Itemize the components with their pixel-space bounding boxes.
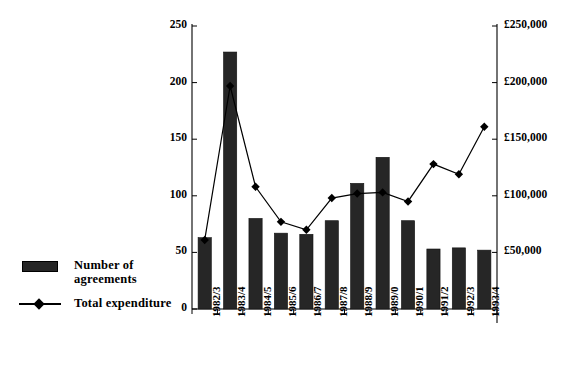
legend-label-agreements-line1: Number of [74, 258, 134, 272]
y-axis-right-tick-150000: £150,000 [504, 131, 547, 143]
expenditure-marker-1993-4 [480, 123, 488, 131]
y-axis-left-tick-250: 250 [170, 18, 187, 30]
y-axis-left-tick-50: 50 [176, 244, 188, 256]
expenditure-marker-1985-6 [277, 218, 285, 226]
chart-legend: Number of agreements Total expenditure [18, 258, 198, 320]
x-axis-tick-1985-6: 1985/6 [286, 286, 298, 317]
bar-1983-4 [224, 52, 237, 309]
legend-label-agreements: Number of agreements [74, 258, 137, 286]
y-axis-right-tick-200000: £200,000 [504, 75, 547, 87]
legend-label-agreements-line2: agreements [74, 272, 137, 286]
y-axis-left-tick-100: 100 [170, 188, 187, 200]
x-axis-tick-1986-7: 1986/7 [311, 286, 323, 317]
x-axis-tick-1990-1: 1990/1 [413, 286, 425, 317]
x-axis-tick-1991-2: 1991/2 [438, 286, 450, 317]
y-axis-right-tick-100000: £100,000 [504, 188, 547, 200]
expenditure-marker-1984-5 [251, 183, 259, 191]
x-axis-tick-1983-4: 1983/4 [235, 286, 247, 317]
legend-item-agreements: Number of agreements [18, 258, 198, 286]
expenditure-marker-1991-2 [429, 160, 437, 168]
y-axis-right-tick-50000: £50,000 [504, 244, 541, 256]
x-axis-tick-1992-3: 1992/3 [464, 286, 476, 317]
x-axis-tick-1982-3: 1982/3 [210, 286, 222, 317]
x-axis-tick-1989-0: 1989/0 [388, 286, 400, 317]
expenditure-marker-1990-1 [404, 197, 412, 205]
expenditure-marker-1992-3 [455, 170, 463, 178]
x-axis-tick-1988-9: 1988/9 [362, 286, 374, 317]
expenditure-line [205, 86, 485, 240]
y-axis-left-tick-200: 200 [170, 75, 187, 87]
chart-container: Number of agreements Total expenditure 0… [0, 0, 580, 372]
x-axis-tick-1984-5: 1984/5 [261, 286, 273, 317]
x-axis-tick-1993-4: 1993/4 [489, 286, 501, 317]
x-axis-tick-1987-8: 1987/8 [337, 286, 349, 317]
legend-line-marker-swatch-icon [18, 296, 74, 309]
y-axis-left-tick-150: 150 [170, 131, 187, 143]
legend-bar-swatch-icon [18, 258, 74, 272]
legend-label-expenditure: Total expenditure [74, 296, 172, 310]
y-axis-left-tick-0: 0 [181, 301, 187, 313]
legend-item-expenditure: Total expenditure [18, 296, 198, 310]
y-axis-right-tick-250000: £250,000 [504, 18, 547, 30]
